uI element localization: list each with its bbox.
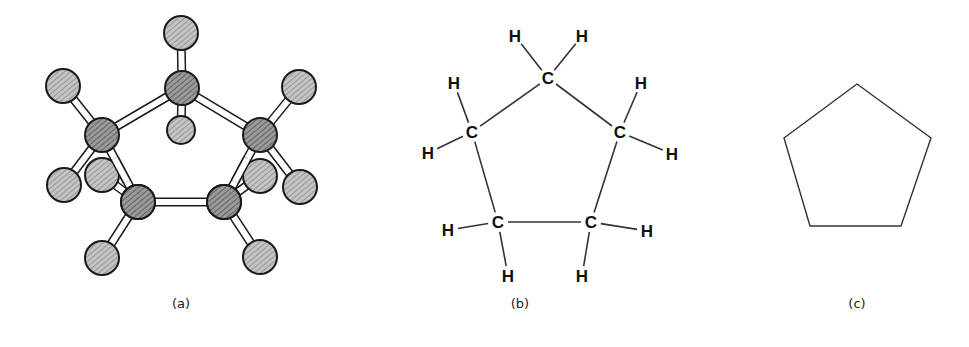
hydrogen-symbol: H xyxy=(422,144,434,163)
hydrogen-symbol: H xyxy=(641,222,653,241)
hydrogen-symbol: H xyxy=(666,145,678,164)
hydrogen-symbol: H xyxy=(448,74,460,93)
pentagon-ring xyxy=(784,84,931,226)
hydrogen-atom-ball xyxy=(47,168,81,202)
c-c-bond xyxy=(480,84,540,126)
c-h-bond xyxy=(437,136,463,148)
carbon-atom-ball xyxy=(243,118,277,152)
c-h-bond xyxy=(500,232,506,266)
c-h-bond xyxy=(554,44,575,70)
hydrogen-atom-ball xyxy=(167,116,195,144)
carbon-atom-ball xyxy=(85,118,119,152)
panel-b-label: (b) xyxy=(511,296,529,311)
c-c-bond xyxy=(475,142,495,213)
c-h-bond xyxy=(629,136,663,150)
c-c-bond xyxy=(594,142,617,213)
panel-c-skeletal-formula xyxy=(784,84,931,226)
hydrogen-atom-ball xyxy=(282,70,316,104)
hydrogen-atom-ball xyxy=(85,241,119,275)
hydrogen-atom-ball xyxy=(283,170,317,204)
hydrogen-symbol: H xyxy=(502,267,514,286)
c-h-bond xyxy=(521,44,542,70)
hydrogen-atom-ball xyxy=(46,69,80,103)
hydrogen-atom-ball xyxy=(164,16,198,50)
c-c-bond xyxy=(556,84,612,126)
carbon-atom-ball xyxy=(207,185,241,219)
c-h-bond xyxy=(457,92,468,122)
carbon-symbol: C xyxy=(585,213,597,232)
carbon-symbol: C xyxy=(466,123,478,142)
hydrogen-symbol: H xyxy=(576,267,588,286)
c-h-bond xyxy=(458,224,488,229)
figure-svg: CCCCCHHHHHHHHHH (a) (b) (c) xyxy=(0,0,969,347)
panel-b-structural-formula: CCCCCHHHHHHHHHH xyxy=(422,27,678,286)
hydrogen-atom-ball xyxy=(243,240,277,274)
panel-a-label: (a) xyxy=(172,296,190,311)
carbon-symbol: C xyxy=(614,123,626,142)
cyclopentane-figure: CCCCCHHHHHHHHHH (a) (b) (c) xyxy=(0,0,969,347)
carbon-symbol: C xyxy=(492,213,504,232)
c-h-bond xyxy=(584,232,590,266)
panel-c-label: (c) xyxy=(848,296,865,311)
hydrogen-symbol: H xyxy=(509,27,521,46)
hydrogen-symbol: H xyxy=(442,221,454,240)
c-h-bond xyxy=(624,92,637,123)
hydrogen-symbol: H xyxy=(635,74,647,93)
carbon-atom-ball xyxy=(165,71,199,105)
hydrogen-symbol: H xyxy=(576,27,588,46)
carbon-symbol: C xyxy=(542,69,554,88)
carbon-atom-ball xyxy=(121,185,155,219)
panel-a-ball-and-stick-model xyxy=(46,16,317,275)
c-h-bond xyxy=(601,224,637,230)
